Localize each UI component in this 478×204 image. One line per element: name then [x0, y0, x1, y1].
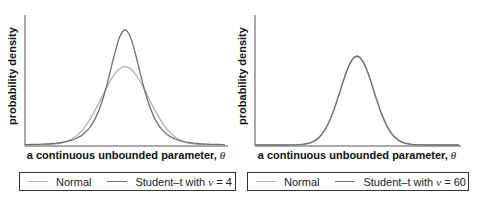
student-t-swatch-icon: [335, 181, 355, 182]
student-t-curve: [255, 56, 459, 145]
theta-symbol: θ: [451, 149, 456, 161]
legend-right: Normal Student–t with ν = 60: [247, 172, 469, 191]
legend-t-label: Student–t with ν = 60: [363, 176, 465, 188]
legend-normal-label: Normal: [284, 176, 319, 188]
normal-curve: [25, 67, 225, 145]
normal-swatch-icon: [256, 181, 276, 182]
chart-panel-left: probability density a continuous unbound…: [0, 0, 239, 204]
y-axis-label: probability density: [236, 16, 248, 136]
normal-swatch-icon: [28, 181, 48, 182]
student-t-curve: [25, 30, 225, 145]
x-axis-label: a continuous unbounded parameter, θ: [249, 149, 465, 161]
legend-t-label: Student–t with ν = 4: [135, 176, 231, 188]
chart-panel-right: probability density a continuous unbound…: [239, 0, 478, 204]
x-axis-label-text: a continuous unbounded parameter,: [27, 149, 220, 161]
student-t-swatch-icon: [107, 181, 127, 182]
legend-left: Normal Student–t with ν = 4: [19, 172, 236, 191]
y-axis-label: probability density: [6, 16, 18, 136]
legend-normal-label: Normal: [56, 176, 91, 188]
theta-symbol: θ: [220, 149, 225, 161]
x-axis-label-text: a continuous unbounded parameter,: [258, 149, 451, 161]
normal-curve: [255, 57, 459, 145]
x-axis-label: a continuous unbounded parameter, θ: [18, 149, 234, 161]
